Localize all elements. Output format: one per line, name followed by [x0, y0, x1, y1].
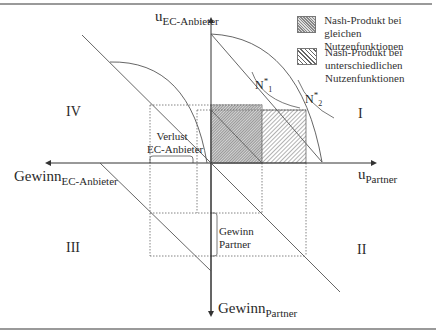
quadrant-label-ii: II — [357, 242, 366, 258]
gewinn-bracket — [211, 213, 217, 256]
verlust-bracket — [150, 156, 193, 163]
axis-label-gewinn-partner: GewinnPartner — [218, 300, 297, 319]
nash-point-n2-label: N*2 — [305, 90, 322, 108]
nash-point-n1-label: N*1 — [255, 76, 272, 94]
verlust-ec-anbieter-label: Verlust EC-Anbieter — [147, 130, 197, 156]
quadrant-label-iii: III — [66, 240, 80, 256]
quadrant-label-iv: IV — [66, 104, 81, 120]
quadrant-label-i: I — [358, 106, 363, 122]
axis-label-u-ec-anbieter: uEC-Anbieter — [155, 8, 219, 27]
legend-swatch-equal — [297, 16, 316, 33]
axis-label-u-partner: uPartner — [358, 166, 397, 185]
legend-swatch-different — [297, 48, 317, 65]
gewinn-partner-label: Gewinn Partner — [219, 225, 254, 251]
nash-product-equal-area — [211, 105, 262, 163]
legend-item-different-utility: Nash-Produkt bei unterschiedlichen Nutze… — [297, 46, 404, 85]
axis-label-gewinn-ec-anbieter: GewinnEC-Anbieter — [14, 168, 118, 187]
